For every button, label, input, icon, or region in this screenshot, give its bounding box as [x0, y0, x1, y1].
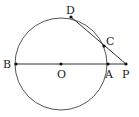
- geometry-diagram: B O A P D C: [0, 0, 139, 117]
- label-o: O: [57, 68, 66, 81]
- label-c: C: [106, 35, 114, 48]
- label-d: D: [66, 4, 75, 17]
- point-b: [14, 62, 17, 65]
- segment-dp: [71, 17, 126, 64]
- point-p: [124, 62, 127, 65]
- label-b: B: [3, 58, 11, 71]
- point-o: [59, 62, 62, 65]
- label-p: P: [122, 68, 130, 81]
- point-a: [106, 62, 109, 65]
- label-a: A: [104, 68, 114, 81]
